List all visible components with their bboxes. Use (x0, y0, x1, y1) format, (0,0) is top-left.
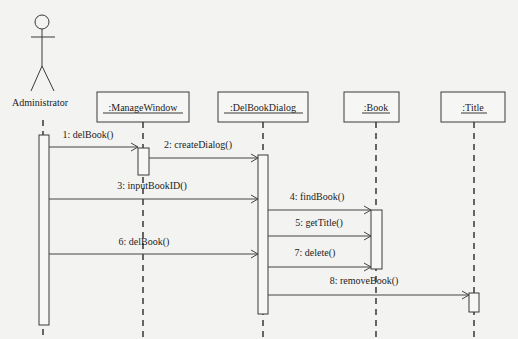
sequence-diagram: Administrator :ManageWindow :DelBookDial… (0, 0, 518, 339)
message-4: 4: findBook() (268, 191, 371, 214)
message-7: 7: delete() (268, 247, 371, 271)
object-manage-window: :ManageWindow (97, 92, 189, 122)
activation-title (469, 293, 479, 312)
message-1: 1: delBook() (49, 129, 138, 151)
activation-manage-window (138, 148, 149, 175)
object-del-book-dialog: :DelBookDialog (218, 92, 308, 122)
actor-head (35, 15, 49, 29)
message-3: 3: inputBookID() (49, 180, 258, 203)
actor-left-leg (31, 66, 42, 91)
actor-label: Administrator (12, 97, 69, 108)
message-label: 2: createDialog() (164, 139, 232, 151)
object-label: :Book (364, 102, 388, 113)
actor-right-leg (42, 66, 54, 91)
object-label: :ManageWindow (108, 102, 178, 113)
message-2: 2: createDialog() (149, 139, 258, 162)
activation-del-book-dialog (258, 155, 268, 314)
object-title: :Title (441, 92, 505, 122)
message-label: 3: inputBookID() (117, 180, 187, 192)
message-label: 6: delBook() (119, 236, 170, 248)
message-5: 5: getTitle() (268, 217, 371, 240)
activation-administrator (39, 135, 49, 325)
activation-book (371, 210, 382, 269)
message-label: 1: delBook() (63, 129, 114, 141)
message-6: 6: delBook() (49, 236, 258, 258)
object-label: :DelBookDialog (230, 102, 296, 113)
message-label: 5: getTitle() (295, 217, 343, 229)
object-book: :Book (344, 92, 399, 122)
actor-administrator: Administrator (12, 15, 69, 108)
message-label: 4: findBook() (290, 191, 345, 203)
message-label: 8: removeBook() (330, 275, 399, 287)
message-8: 8: removeBook() (268, 275, 469, 299)
message-label: 7: delete() (295, 247, 336, 259)
object-label: :Title (462, 102, 484, 113)
